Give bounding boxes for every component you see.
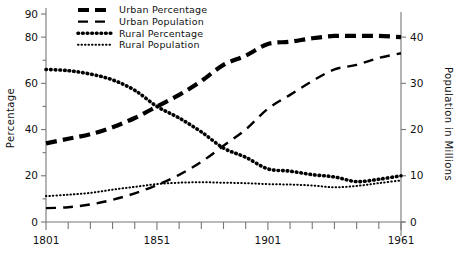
y-tick-label: 90 (25, 8, 38, 20)
x-tick-label: 1801 (33, 234, 60, 246)
x-tick-label: 1851 (144, 234, 171, 246)
y-tick-label: 40 (25, 123, 38, 135)
legend-label-urban-population: Urban Population (119, 16, 204, 27)
series-line-urban-percentage (46, 36, 401, 144)
legend-label-urban-percentage: Urban Percentage (119, 4, 207, 15)
urban-rural-line-chart: 020406080900102030401801185119011961Perc… (0, 0, 459, 260)
y-tick-label: 60 (25, 77, 38, 89)
series-line-rural-population (46, 180, 401, 196)
chart-root: 020406080900102030401801185119011961Perc… (0, 0, 459, 260)
x-tick-label: 1961 (388, 234, 415, 246)
y-tick-label: 20 (25, 169, 38, 181)
y-tick-label: 0 (31, 216, 38, 228)
y-axis-title-left: Percentage (5, 88, 16, 148)
x-tick-label: 1901 (255, 234, 282, 246)
y2-tick-label: 30 (410, 77, 423, 89)
y-tick-label: 80 (25, 31, 38, 43)
y2-tick-label: 0 (410, 216, 417, 228)
y-axis-title-right: Population in Millions (443, 67, 454, 181)
legend-label-rural-percentage: Rural Percentage (119, 28, 203, 39)
y2-tick-label: 40 (410, 31, 423, 43)
series-line-rural-percentage (46, 69, 401, 181)
y2-tick-label: 10 (410, 169, 423, 181)
y2-tick-label: 20 (410, 123, 423, 135)
legend-label-rural-population: Rural Population (119, 39, 200, 50)
